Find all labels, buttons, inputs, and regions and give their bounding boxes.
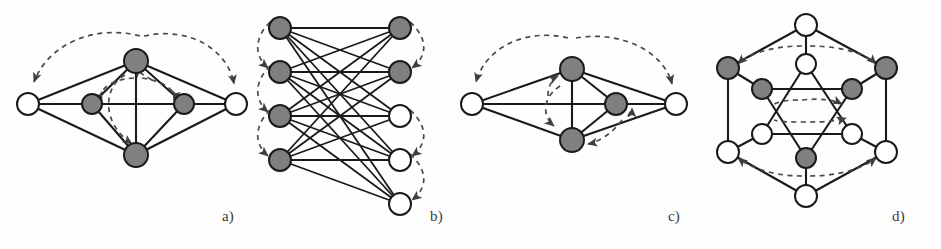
- node-d-outer-upper-right: [875, 57, 897, 79]
- diagram-panel-b: [248, 0, 458, 249]
- edge-c-left-top: [472, 69, 572, 104]
- edge-left-bottom: [28, 104, 136, 155]
- node-b-R1: [389, 17, 411, 39]
- node-c-bottom-hub: [560, 128, 584, 152]
- node-d-outer-top: [795, 14, 817, 36]
- dashed-arc-d-bottom-right: [810, 158, 876, 176]
- edge-left-top: [28, 61, 136, 104]
- dashed-arc-d-bottom-left: [738, 158, 802, 176]
- caption-d: d): [892, 208, 905, 225]
- graph-a-svg: [0, 0, 250, 249]
- node-b-L2: [269, 61, 291, 83]
- edge-L4-R5: [280, 160, 400, 204]
- node-a-top-hub: [124, 49, 148, 73]
- node-a-inner-left: [82, 94, 102, 114]
- graph-b-bipartite-edges: [280, 28, 400, 204]
- graph-d-spokes: [728, 25, 886, 196]
- node-a-right-apex: [225, 93, 247, 115]
- dashed-arc-c-outer-right: [576, 36, 672, 84]
- graph-a-edges: [28, 61, 236, 155]
- node-d-outer-lower-left: [717, 141, 739, 163]
- node-c-left-apex: [461, 93, 483, 115]
- graph-d-hexagram-edges: [762, 64, 852, 158]
- dashed-arc-right-2: [410, 110, 424, 156]
- dashed-arc-d-inner-upper-tail: [772, 100, 798, 105]
- dashed-arc-d-top-left: [738, 46, 802, 64]
- caption-c: c): [668, 208, 680, 225]
- node-d-inner-lower-left: [752, 124, 772, 144]
- node-c-right-apex: [665, 93, 687, 115]
- node-d-inner-top: [796, 54, 816, 74]
- node-d-outer-bottom: [795, 185, 817, 207]
- caption-a: a): [222, 208, 234, 225]
- node-a-inner-right: [174, 94, 194, 114]
- node-d-outer-upper-left: [717, 57, 739, 79]
- node-d-inner-bottom: [796, 148, 816, 168]
- edge-d-outer-ul-top: [728, 25, 806, 68]
- dashed-arc-c-lower-tip: [628, 108, 632, 116]
- node-d-inner-upper-right: [842, 79, 862, 99]
- graph-c-svg: [452, 0, 692, 249]
- node-d-inner-upper-left: [752, 79, 772, 99]
- graph-d-nodes-inner: [752, 54, 862, 168]
- dashed-arc-right-3: [410, 154, 424, 200]
- node-a-left-apex: [17, 93, 39, 115]
- dashed-arc-d-top-right: [810, 46, 876, 64]
- node-b-L4: [269, 149, 291, 171]
- dashed-arc-right-1: [410, 22, 424, 68]
- node-a-bottom-hub: [124, 143, 148, 167]
- node-b-R3: [389, 105, 411, 127]
- node-b-L3: [269, 105, 291, 127]
- graph-a-nodes: [17, 49, 247, 167]
- diagram-panel-c: [452, 0, 692, 249]
- node-b-R4: [389, 149, 411, 171]
- edge-d-outer-bottom-ll: [728, 152, 806, 196]
- edge-c-left-bottom: [472, 104, 572, 140]
- node-c-inner-right: [605, 93, 627, 115]
- node-d-outer-lower-right: [875, 141, 897, 163]
- diagram-panel-a: [0, 0, 250, 249]
- dashed-arc-d-inner-lower: [810, 118, 846, 122]
- node-b-L1: [269, 17, 291, 39]
- figure-root: a) b) c) d): [0, 0, 941, 249]
- caption-b: b): [430, 208, 443, 225]
- dashed-arc-outer-right: [144, 34, 234, 84]
- graph-b-svg: [248, 0, 458, 249]
- dashed-arc-d-inner-lower-tail: [774, 120, 806, 122]
- node-d-inner-lower-right: [842, 124, 862, 144]
- node-b-R5: [389, 193, 411, 215]
- node-b-R2: [389, 61, 411, 83]
- node-c-top-hub: [560, 57, 584, 81]
- dashed-arc-d-inner-upper: [802, 99, 842, 104]
